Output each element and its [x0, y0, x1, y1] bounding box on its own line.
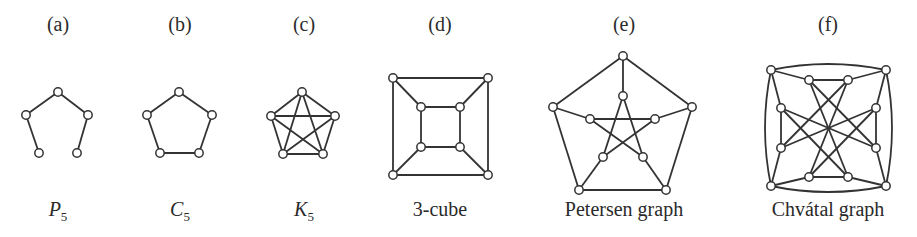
graph-vertex	[599, 153, 607, 161]
graph-vertex	[882, 182, 890, 190]
graph-edge	[579, 157, 603, 190]
graph-edge-arc	[771, 186, 886, 192]
graph-edge	[848, 70, 886, 80]
graph-vertex	[619, 52, 627, 60]
graph-vertex	[586, 115, 594, 123]
graph-edge	[271, 116, 323, 154]
graph-vertex	[298, 88, 306, 96]
caption-k5: K5	[294, 198, 314, 225]
graph-vertex	[767, 66, 775, 74]
graph-vertex	[84, 111, 92, 119]
graph-edge	[876, 70, 886, 108]
graph-edge	[283, 116, 335, 154]
panel-label-d: (d)	[428, 13, 451, 36]
graph-edge	[553, 107, 590, 119]
graph-vertex	[872, 144, 880, 152]
graph-edge	[147, 115, 160, 153]
graph-edge	[26, 92, 58, 115]
caption-c5-sub: 5	[183, 209, 190, 224]
caption-p5: P5	[49, 198, 68, 225]
graph-vertex	[662, 186, 670, 194]
graph-edge	[271, 116, 283, 154]
graph-edge	[393, 78, 421, 107]
graph-vertex	[456, 143, 464, 151]
graph-vertex	[389, 74, 397, 82]
panel-label-e: (e)	[613, 13, 635, 36]
graph-edge	[460, 147, 488, 175]
graph-edge	[771, 148, 781, 186]
graph-edge	[179, 92, 212, 115]
graph-a	[22, 88, 92, 157]
graph-e	[549, 52, 696, 194]
graph-edge	[283, 92, 302, 154]
graph-vertex	[688, 103, 696, 111]
graph-edge	[848, 177, 886, 186]
graph-vertex	[639, 153, 647, 161]
graph-vertex	[22, 111, 30, 119]
graph-vertex	[331, 112, 339, 120]
graph-edge-arc	[886, 70, 892, 186]
graph-c	[267, 88, 339, 158]
graph-edge	[623, 96, 643, 157]
graph-edge	[771, 70, 781, 108]
graph-vertex	[777, 104, 785, 112]
graph-edge	[323, 116, 335, 154]
graph-edge	[771, 177, 809, 186]
graph-edge	[590, 119, 643, 157]
graph-vertex	[195, 149, 203, 157]
panel-label-f: (f)	[818, 13, 838, 36]
caption-chvatal: Chvátal graph	[772, 198, 885, 221]
graph-vertex	[175, 88, 183, 96]
graph-vertex	[417, 103, 425, 111]
caption-k5-main: K	[294, 198, 307, 220]
graph-edge	[643, 157, 666, 190]
caption-p5-main: P	[49, 198, 61, 220]
caption-petersen: Petersen graph	[565, 198, 683, 221]
graph-f	[765, 64, 892, 192]
graph-vertex	[882, 66, 890, 74]
graph-vertex	[156, 149, 164, 157]
panel-label-b: (b)	[168, 13, 191, 36]
graph-vertex	[319, 150, 327, 158]
graph-vertex	[208, 111, 216, 119]
graph-vertex	[844, 76, 852, 84]
graph-vertex	[267, 112, 275, 120]
graph-vertex	[484, 171, 492, 179]
panel-label-a: (a)	[47, 13, 69, 36]
graph-edge-arc	[771, 64, 886, 70]
caption-k5-sub: 5	[307, 209, 314, 224]
graph-vertex	[619, 92, 627, 100]
graph-edge	[655, 107, 692, 119]
graph-edge	[809, 80, 876, 148]
graph-edge	[553, 107, 579, 190]
graph-edge	[781, 108, 848, 177]
caption-c5-main: C	[170, 198, 183, 220]
panel-label-c: (c)	[293, 13, 315, 36]
graph-vertex	[54, 88, 62, 96]
graph-edge	[77, 115, 88, 153]
caption-3-cube: 3-cube	[413, 198, 467, 221]
graph-edge	[58, 92, 88, 115]
graph-d	[389, 74, 492, 179]
graph-vertex	[805, 76, 813, 84]
graph-edge	[666, 107, 692, 190]
graph-edge	[623, 56, 692, 107]
graph-vertex	[805, 173, 813, 181]
graph-vertex	[389, 171, 397, 179]
graph-edge	[147, 92, 179, 115]
graph-edge	[553, 56, 623, 107]
graph-edge	[460, 78, 488, 107]
graph-edge	[781, 80, 848, 148]
caption-c5: C5	[170, 198, 190, 225]
graph-vertex	[767, 182, 775, 190]
graph-edge	[809, 108, 876, 177]
graph-edge	[302, 92, 323, 154]
graph-vertex	[456, 103, 464, 111]
graph-vertex	[35, 149, 43, 157]
graph-vertex	[549, 103, 557, 111]
graph-vertex	[651, 115, 659, 123]
graph-edge	[271, 92, 302, 116]
graph-edge	[876, 148, 886, 186]
graph-edge	[393, 147, 421, 175]
graph-vertex	[872, 104, 880, 112]
